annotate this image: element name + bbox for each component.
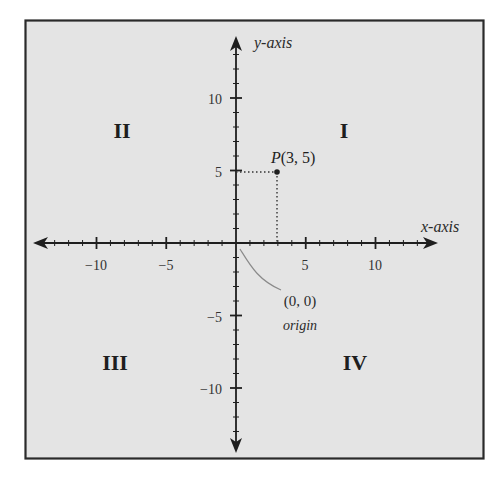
quadrant-label-I: I (340, 118, 349, 143)
x-tick-label: 10 (368, 258, 382, 273)
y-axis-label: y-axis (252, 34, 292, 52)
x-axis-label: x-axis (420, 218, 459, 235)
y-tick-label: −5 (207, 310, 222, 325)
x-tick-label: 5 (302, 258, 309, 273)
y-tick-label: 10 (208, 92, 222, 107)
origin-coords-label: (0, 0) (284, 293, 317, 310)
point-p-marker (274, 169, 280, 175)
quadrant-label-II: II (113, 118, 130, 143)
coordinate-plane-figure: y-axis x-axis −10 −5 5 10 10 5 −5 −10 I … (0, 0, 500, 489)
point-p-name: P (270, 149, 281, 166)
plot-panel (26, 21, 484, 459)
origin-name-label: origin (283, 318, 317, 333)
quadrant-label-III: III (102, 350, 128, 375)
y-tick-label: 5 (215, 165, 222, 180)
x-tick-label: −5 (159, 258, 174, 273)
point-p-label: P(3, 5) (270, 149, 315, 167)
y-tick-label: −10 (200, 382, 222, 397)
point-p-coords: (3, 5) (281, 149, 316, 167)
x-tick-label: −10 (85, 258, 107, 273)
quadrant-label-IV: IV (343, 350, 368, 375)
